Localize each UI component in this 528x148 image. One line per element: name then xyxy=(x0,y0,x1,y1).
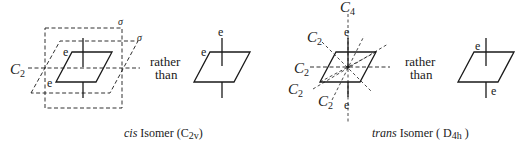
c2-label-lower-left: C2 xyxy=(288,81,303,99)
cis-alternative-structure: e e xyxy=(194,25,250,98)
ligand-e-2: e xyxy=(47,76,52,90)
alt-ligand-e-2: e xyxy=(201,45,206,59)
metal-center xyxy=(346,65,349,68)
c2-axis-label: C2 xyxy=(10,61,25,79)
alt-ligand-e-1: e xyxy=(218,25,223,39)
alt-ligand-e-1: e xyxy=(475,39,480,53)
trans-alternative-structure: e e xyxy=(458,38,514,98)
alt-ligand-e-2: e xyxy=(491,84,496,98)
cis-caption: cis Isomer (C2v) xyxy=(124,126,203,141)
ligand-e-top: e xyxy=(344,25,349,39)
cis-isomer-diagram: e e σ σ C2 rather than e e cis Isomer (C… xyxy=(10,16,250,141)
c2-label-bottom: C2 xyxy=(318,93,333,111)
symmetry-diagram: e e σ σ C2 rather than e e cis Isomer (C… xyxy=(0,0,528,148)
than-label: than xyxy=(155,67,178,82)
ligand-e-bottom: e xyxy=(344,98,349,112)
ligand-e-1: e xyxy=(63,45,68,59)
sigma-label-1: σ xyxy=(118,16,124,27)
c4-axis-label: C4 xyxy=(340,0,355,17)
sigma-label-2: σ xyxy=(137,32,143,43)
trans-isomer-diagram: e e C4 C2 C2 C2 C2 rather than e e trans xyxy=(288,0,514,141)
c2-label-upper-left: C2 xyxy=(307,29,322,47)
trans-caption: trans Isomer ( D4h ) xyxy=(372,126,469,141)
than-label: than xyxy=(410,67,433,82)
c2-label-left: C2 xyxy=(294,60,309,78)
